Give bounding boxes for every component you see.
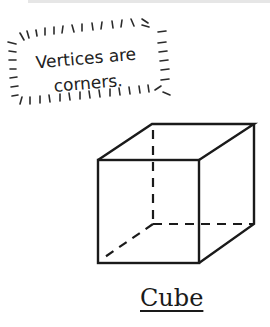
figure-caption: Cube [140, 284, 203, 312]
cube-front-face [98, 160, 199, 263]
cube-figure [0, 0, 270, 327]
